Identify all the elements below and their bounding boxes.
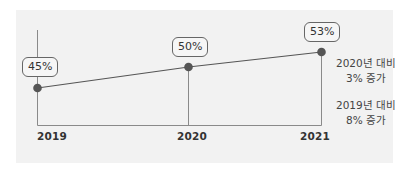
annotation-vs-2019: 2019년 대비 8% 증가 bbox=[330, 98, 402, 128]
annotation-vs-2019-line1: 2019년 대비 bbox=[330, 98, 402, 113]
line-chart bbox=[0, 0, 411, 173]
x-tick-2019: 2019 bbox=[37, 130, 67, 142]
value-label-2019: 45% bbox=[22, 57, 58, 77]
annotation-vs-2020-line1: 2020년 대비 bbox=[330, 56, 402, 71]
data-point-2021 bbox=[317, 48, 326, 57]
x-tick-2021: 2021 bbox=[300, 130, 330, 142]
value-label-2021: 53% bbox=[304, 22, 340, 42]
annotation-vs-2020: 2020년 대비 3% 증가 bbox=[330, 56, 402, 86]
data-point-2020 bbox=[184, 63, 193, 72]
x-tick-2020: 2020 bbox=[177, 130, 207, 142]
annotation-vs-2020-line2: 3% 증가 bbox=[330, 71, 402, 86]
data-line bbox=[38, 52, 322, 88]
data-point-2019 bbox=[33, 84, 42, 93]
value-label-2020: 50% bbox=[172, 37, 208, 57]
annotation-vs-2019-line2: 8% 증가 bbox=[330, 113, 402, 128]
